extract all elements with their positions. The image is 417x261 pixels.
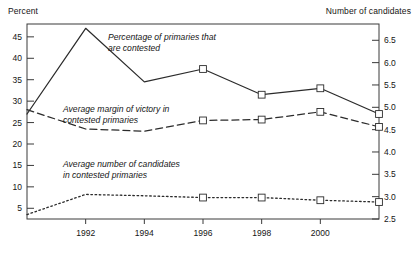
y-tick-right-label: 4.5: [384, 125, 396, 135]
y-tick-left-label: 15: [13, 160, 23, 170]
data-point-marker: [258, 91, 265, 98]
annot-candidates-line1: Average number of candidates: [62, 159, 181, 169]
y-axis-right-title: Number of candidates: [326, 6, 411, 16]
y-tick-left-label: 10: [13, 182, 23, 192]
y-tick-right-label: 3.0: [384, 192, 396, 202]
chart-container: Percent Number of candidates 19921994199…: [0, 0, 417, 261]
data-point-marker: [258, 116, 265, 123]
data-point-marker: [317, 108, 324, 115]
x-axis-ticks: 19921994199619982000: [76, 219, 330, 238]
y-axis-left-ticks: 51015202530354045: [13, 32, 34, 213]
x-tick-label: 1996: [194, 228, 213, 238]
y-tick-left-label: 45: [13, 32, 23, 42]
plot-area: 19921994199619982000 51015202530354045 2…: [0, 0, 417, 261]
y-tick-left-label: 35: [13, 75, 23, 85]
y-tick-right-label: 5.5: [384, 80, 396, 90]
y-tick-right-label: 2.5: [384, 214, 396, 224]
x-tick-label: 1994: [135, 228, 154, 238]
x-tick-label: 1992: [76, 228, 95, 238]
y-tick-left-label: 40: [13, 53, 23, 63]
data-point-marker: [200, 194, 207, 201]
data-point-marker: [317, 197, 324, 204]
data-point-marker: [200, 117, 207, 124]
annot-margin-line2: contested primaries: [63, 115, 139, 125]
y-tick-left-label: 25: [13, 118, 23, 128]
data-point-marker: [200, 66, 207, 73]
marker-group: [200, 66, 383, 206]
x-tick-label: 2000: [311, 228, 330, 238]
y-tick-left-label: 20: [13, 139, 23, 149]
annot-margin-line1: Average margin of victory in: [62, 104, 170, 114]
data-point-marker: [376, 111, 383, 118]
y-tick-left-label: 30: [13, 96, 23, 106]
y-tick-right-label: 6.0: [384, 58, 396, 68]
y-tick-right-label: 3.5: [384, 169, 396, 179]
x-tick-label: 1998: [252, 228, 271, 238]
y-tick-right-label: 6.5: [384, 35, 396, 45]
annotation-group: Percentage of primaries thatare conteste…: [62, 32, 217, 180]
annot-contested-line1: Percentage of primaries that: [108, 32, 217, 42]
annot-candidates-line2: in contested primaries: [63, 170, 148, 180]
data-point-marker: [376, 123, 383, 130]
y-axis-left-title: Percent: [8, 6, 38, 16]
data-point-marker: [317, 85, 324, 92]
data-point-marker: [258, 194, 265, 201]
y-tick-right-label: 4.0: [384, 147, 396, 157]
y-tick-right-label: 5.0: [384, 102, 396, 112]
annot-contested-line2: are contested: [108, 43, 160, 53]
y-tick-left-label: 5: [17, 203, 22, 213]
data-point-marker: [376, 199, 383, 206]
